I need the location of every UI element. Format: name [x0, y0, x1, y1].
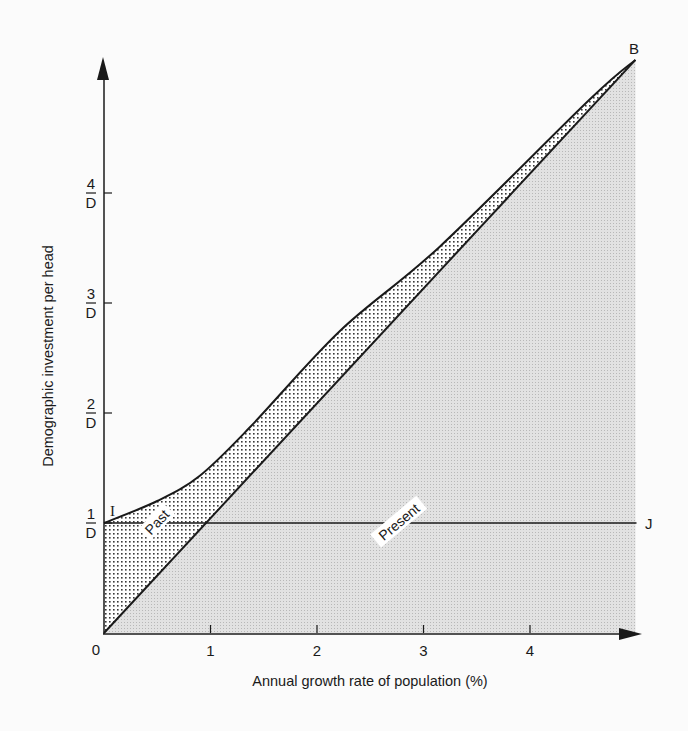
y-axis-title: Demographic investment per head	[40, 245, 56, 467]
y-tick-denominator: D	[86, 194, 97, 211]
point-B-label: B	[629, 40, 639, 57]
point-I-label: I	[110, 503, 115, 519]
x-tick-label: 1	[206, 642, 214, 659]
chart: 1234 1D2D3D4D Annual growth rate of popu…	[0, 0, 688, 731]
y-tick-numerator: 1	[87, 505, 95, 522]
y-axis-arrow-icon	[97, 57, 109, 80]
y-tick-denominator: D	[86, 304, 97, 321]
x-tick-label: 3	[419, 642, 427, 659]
y-axis-ticks: 1D2D3D4D	[86, 175, 112, 541]
y-tick-numerator: 3	[87, 285, 95, 302]
origin-label: 0	[92, 641, 100, 658]
x-tick-label: 2	[313, 642, 321, 659]
y-tick-numerator: 2	[87, 395, 95, 412]
x-tick-label: 4	[526, 642, 534, 659]
y-tick-denominator: D	[86, 414, 97, 431]
y-tick-numerator: 4	[87, 175, 95, 192]
point-J-label: J	[645, 515, 653, 532]
y-tick-denominator: D	[86, 524, 97, 541]
x-axis-title: Annual growth rate of population (%)	[252, 673, 487, 689]
